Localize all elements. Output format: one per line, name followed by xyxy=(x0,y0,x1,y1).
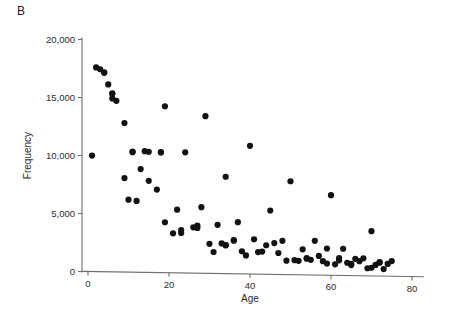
data-point xyxy=(336,257,342,263)
data-point xyxy=(121,175,127,181)
x-tick-label: 40 xyxy=(245,280,256,291)
data-point xyxy=(138,166,144,172)
x-axis-title: Age xyxy=(241,293,259,304)
data-point xyxy=(279,238,285,244)
y-tick-label: 20,000 xyxy=(46,34,75,45)
x-axis-line xyxy=(82,271,424,276)
scatter-plot: 05,00010,00015,00020,000 020406080 AgeFr… xyxy=(0,0,451,318)
figure-panel-b: B 05,00010,00015,00020,000 020406080 Age… xyxy=(0,0,451,318)
data-point xyxy=(162,219,168,225)
data-point xyxy=(89,152,95,158)
y-tick-label: 5,000 xyxy=(51,208,75,219)
data-point xyxy=(389,258,395,264)
data-point xyxy=(202,113,208,119)
data-point xyxy=(247,143,253,149)
x-tick-label: 80 xyxy=(407,283,418,294)
data-point xyxy=(178,230,184,236)
data-point xyxy=(324,260,330,266)
data-point xyxy=(377,259,383,265)
data-point xyxy=(223,174,229,180)
data-point xyxy=(283,258,289,264)
data-point xyxy=(154,187,160,193)
data-point xyxy=(360,255,366,261)
data-point xyxy=(259,248,265,254)
y-tick-label: 15,000 xyxy=(46,92,75,103)
data-point xyxy=(113,98,119,104)
data-point xyxy=(312,238,318,244)
data-point xyxy=(170,230,176,236)
data-point xyxy=(162,103,168,109)
y-tick-label: 10,000 xyxy=(46,150,75,161)
data-point xyxy=(231,237,237,243)
data-point xyxy=(235,219,241,225)
data-point xyxy=(105,81,111,87)
data-point xyxy=(287,178,293,184)
data-point xyxy=(243,252,249,258)
data-point xyxy=(206,241,212,247)
data-point xyxy=(316,253,322,259)
data-point xyxy=(125,197,131,203)
data-point xyxy=(275,250,281,256)
data-point xyxy=(223,242,229,248)
data-point xyxy=(251,236,257,242)
data-points xyxy=(89,64,395,272)
x-tick-label: 0 xyxy=(85,278,90,289)
data-point xyxy=(328,192,334,198)
data-point xyxy=(348,261,354,267)
data-point xyxy=(129,149,135,155)
data-point xyxy=(324,245,330,251)
data-point xyxy=(121,120,127,126)
data-point xyxy=(210,249,216,255)
data-point xyxy=(101,70,107,76)
data-point xyxy=(271,240,277,246)
data-point xyxy=(340,246,346,252)
data-point xyxy=(182,149,188,155)
data-point xyxy=(146,178,152,184)
y-axis-title: Frequency xyxy=(22,132,33,179)
data-point xyxy=(198,204,204,210)
data-point xyxy=(296,258,302,264)
data-point xyxy=(134,198,140,204)
data-point xyxy=(263,242,269,248)
x-tick-label: 20 xyxy=(164,279,175,290)
y-axis: 05,00010,00015,00020,000 xyxy=(46,34,82,277)
data-point xyxy=(146,149,152,155)
data-point xyxy=(194,225,200,231)
x-axis: 020406080 xyxy=(82,271,424,293)
data-point xyxy=(300,246,306,252)
y-tick-label: 0 xyxy=(70,266,75,277)
data-point xyxy=(381,266,387,272)
data-point xyxy=(158,149,164,155)
data-point xyxy=(174,207,180,213)
data-point xyxy=(215,222,221,228)
data-point xyxy=(308,257,314,263)
data-point xyxy=(368,228,374,234)
data-point xyxy=(267,207,273,213)
x-tick-label: 60 xyxy=(326,281,337,292)
